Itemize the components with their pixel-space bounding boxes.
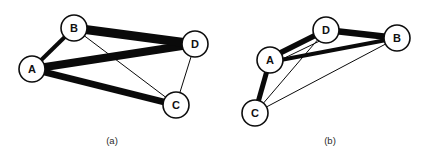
node-b-B[interactable]: B — [384, 25, 410, 51]
node-a-A[interactable]: A — [19, 56, 45, 82]
node-a-B[interactable]: B — [61, 15, 87, 41]
graph-figure-canvas: A B D C (a) — [0, 0, 431, 156]
node-b-C[interactable]: C — [242, 100, 268, 126]
node-b-A-label: A — [266, 54, 274, 66]
node-a-A-label: A — [28, 63, 36, 75]
node-b-D[interactable]: D — [313, 17, 339, 43]
edge-a-A-C — [32, 69, 176, 105]
figure-root: A B D C (a) — [0, 0, 431, 156]
node-a-D[interactable]: D — [182, 31, 208, 57]
node-a-C[interactable]: C — [163, 92, 189, 118]
node-b-A[interactable]: A — [257, 47, 283, 73]
node-a-D-label: D — [191, 38, 199, 50]
node-b-C-label: C — [251, 107, 259, 119]
panel-b: A D B C (b) — [242, 17, 410, 146]
caption-panel-a: (a) — [106, 135, 118, 146]
node-a-B-label: B — [70, 22, 78, 34]
node-b-B-label: B — [393, 32, 401, 44]
node-a-C-label: C — [172, 99, 180, 111]
caption-panel-b: (b) — [324, 135, 336, 146]
node-b-D-label: D — [322, 24, 330, 36]
panel-a: A B D C (a) — [19, 15, 208, 146]
panel-b-nodes: A D B C — [242, 17, 410, 126]
